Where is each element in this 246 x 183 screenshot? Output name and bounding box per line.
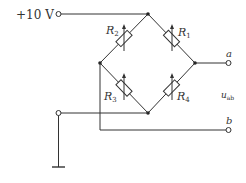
terminal-a (226, 61, 231, 66)
ground-icon (52, 116, 65, 168)
top-node (146, 12, 150, 16)
r1-label: R1 (177, 26, 191, 40)
supply-terminal (56, 12, 61, 17)
terminal-b (226, 128, 231, 133)
bridge-circuit-diagram: +10 V R2 R1 R3 R4 a b uab (0, 0, 246, 183)
r4-label: R4 (176, 90, 190, 104)
supply-wire (56, 12, 148, 17)
output-voltage-label: uab (221, 90, 234, 101)
terminal-b-label: b (226, 115, 232, 126)
ground-terminal (56, 111, 61, 116)
r2-label: R2 (105, 24, 119, 38)
r3-label: R3 (103, 90, 117, 104)
supply-label: +10 V (16, 8, 54, 22)
terminal-a-label: a (226, 48, 232, 59)
